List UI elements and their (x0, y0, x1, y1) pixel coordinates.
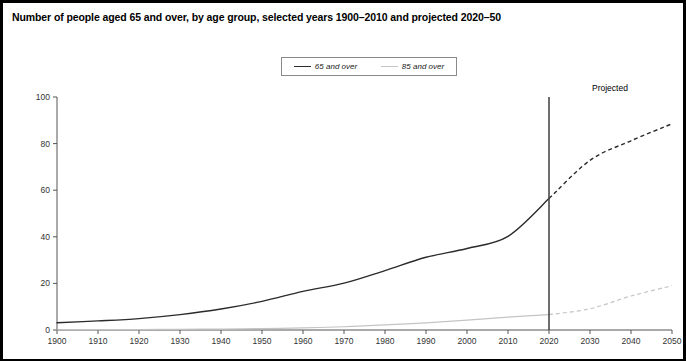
svg-text:1920: 1920 (130, 336, 149, 346)
svg-text:1930: 1930 (171, 336, 190, 346)
svg-text:2030: 2030 (581, 336, 600, 346)
svg-text:2020: 2020 (540, 336, 559, 346)
data-series-group (57, 124, 672, 330)
svg-text:1950: 1950 (253, 336, 272, 346)
svg-text:100: 100 (36, 92, 50, 102)
svg-text:20: 20 (41, 278, 51, 288)
svg-text:1970: 1970 (335, 336, 354, 346)
svg-text:1980: 1980 (376, 336, 395, 346)
chart-plot-area: 020406080100 190019101920193019401950196… (0, 0, 686, 361)
x-axis-ticks: 1900191019201930194019501960197019801990… (48, 330, 682, 346)
svg-text:2050: 2050 (663, 336, 682, 346)
svg-text:0: 0 (45, 325, 50, 335)
chart-figure: Number of people aged 65 and over, by ag… (0, 0, 686, 361)
svg-text:2040: 2040 (622, 336, 641, 346)
svg-text:2000: 2000 (458, 336, 477, 346)
svg-text:1940: 1940 (212, 336, 231, 346)
svg-text:2010: 2010 (499, 336, 518, 346)
svg-text:1900: 1900 (48, 336, 67, 346)
svg-text:1910: 1910 (89, 336, 108, 346)
svg-text:1990: 1990 (417, 336, 436, 346)
svg-text:80: 80 (41, 139, 51, 149)
svg-text:60: 60 (41, 185, 51, 195)
svg-text:1960: 1960 (294, 336, 313, 346)
svg-text:40: 40 (41, 232, 51, 242)
y-axis-ticks: 020406080100 (36, 92, 57, 335)
